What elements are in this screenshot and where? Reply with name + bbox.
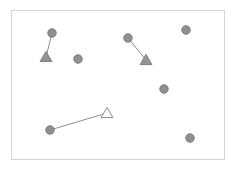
circle-marker — [182, 26, 190, 34]
circle-marker — [48, 29, 56, 37]
scatter-plot-figure — [0, 0, 235, 171]
circle-marker — [124, 34, 132, 42]
circle-marker — [74, 55, 82, 63]
circle-marker — [46, 126, 54, 134]
circle-marker — [186, 134, 194, 142]
plot-canvas — [0, 0, 235, 171]
circle-marker — [160, 85, 168, 93]
